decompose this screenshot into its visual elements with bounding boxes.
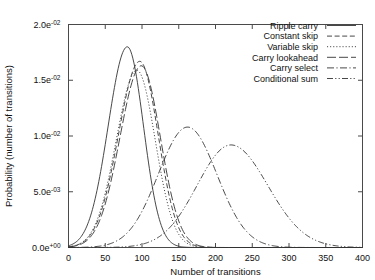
x-tick-label: 300: [281, 253, 296, 263]
curve-ripple-carry: [69, 47, 363, 248]
plot-frame: [69, 25, 363, 248]
curve-carry-lookahead: [69, 66, 363, 248]
y-tick-label: 5.0e-03: [34, 186, 61, 197]
probability-transitions-chart: 0501001502002503003504000.0e+005.0e-031.…: [0, 0, 375, 280]
x-tick-label: 0: [66, 253, 71, 263]
y-axis-title: Probability (number of transitions): [3, 65, 14, 207]
y-tick-labels: 0.0e+005.0e-031.0e-021.5e-022.0e-02: [32, 19, 61, 253]
legend-label: Ripple carry: [270, 21, 319, 31]
curve-conditional-sum: [69, 145, 363, 248]
axis-ticks: [69, 25, 363, 248]
x-tick-label: 100: [134, 253, 149, 263]
x-tick-label: 250: [245, 253, 260, 263]
x-tick-label: 150: [171, 253, 186, 263]
legend: Ripple carryConstant skipVariable skipCa…: [252, 21, 356, 84]
y-tick-label: 1.0e-02: [34, 130, 61, 141]
curve-carry-select: [69, 127, 363, 247]
legend-label: Carry select: [270, 63, 319, 73]
legend-label: Carry lookahead: [252, 53, 318, 63]
legend-label: Constant skip: [263, 31, 318, 41]
chart-canvas: 0501001502002503003504000.0e+005.0e-031.…: [0, 0, 375, 280]
legend-label: Conditional sum: [253, 74, 318, 84]
curve-constant-skip: [69, 61, 363, 247]
x-tick-label: 400: [355, 253, 370, 263]
x-tick-label: 200: [208, 253, 223, 263]
x-tick-labels: 050100150200250300350400: [66, 253, 370, 263]
y-tick-label: 1.5e-02: [34, 74, 61, 85]
data-curves: [69, 47, 363, 248]
x-axis-title: Number of transitions: [170, 266, 261, 277]
x-tick-label: 350: [318, 253, 333, 263]
legend-label: Variable skip: [267, 42, 318, 52]
y-tick-label: 2.0e-02: [34, 19, 61, 30]
y-tick-label: 0.0e+00: [32, 242, 61, 253]
x-tick-label: 50: [100, 253, 110, 263]
